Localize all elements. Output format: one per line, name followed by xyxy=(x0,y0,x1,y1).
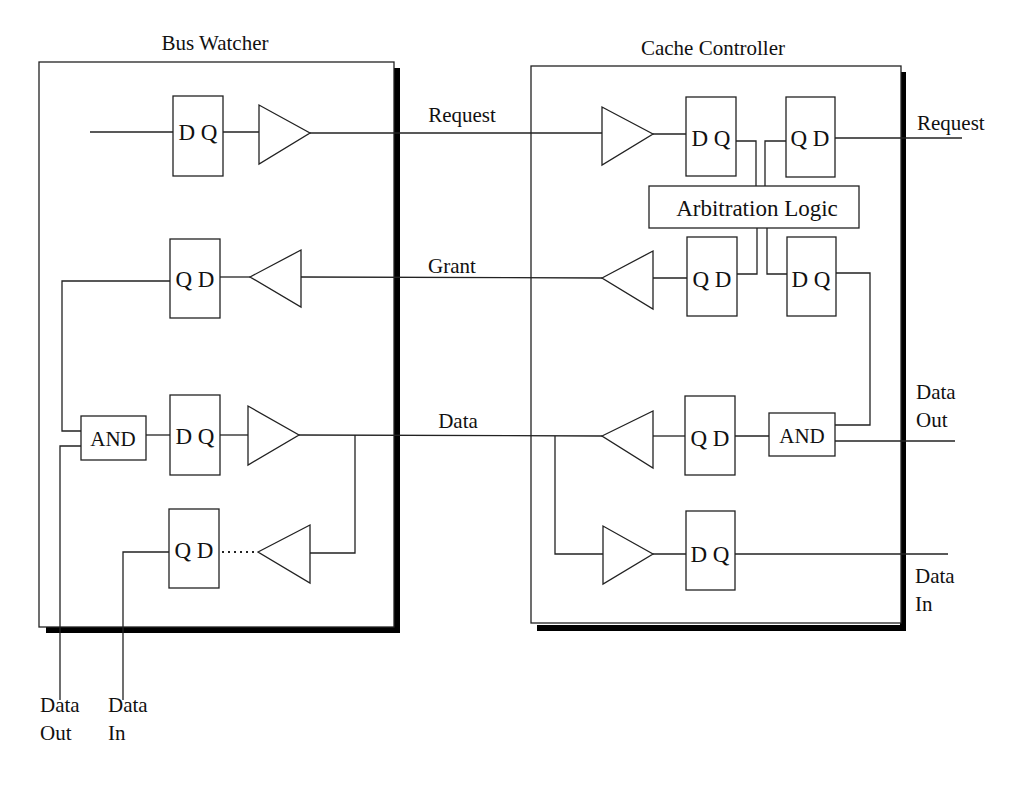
svg-text:AND: AND xyxy=(779,424,825,448)
svg-text:In: In xyxy=(108,721,126,745)
svg-text:In: In xyxy=(915,592,933,616)
svg-text:Q D: Q D xyxy=(693,267,732,292)
data-bus-label: Data xyxy=(438,409,478,433)
svg-text:Q D: Q D xyxy=(791,126,830,151)
svg-text:Q D: Q D xyxy=(175,538,214,563)
bw-data-in-label: Data xyxy=(108,693,148,717)
bw-data-out-label: Data xyxy=(40,693,80,717)
cache-controller-title: Cache Controller xyxy=(641,36,785,60)
grant-bus-label: Grant xyxy=(428,254,476,278)
cc-data-out-label: Data xyxy=(916,380,956,404)
svg-text:Q D: Q D xyxy=(691,426,730,451)
svg-text:D Q: D Q xyxy=(792,267,831,292)
bus-watcher-cache-controller-diagram: Bus Watcher Cache Controller D Q Request… xyxy=(0,0,1029,785)
bus-watcher-title: Bus Watcher xyxy=(162,31,269,55)
svg-text:D Q: D Q xyxy=(691,542,730,567)
svg-text:D Q: D Q xyxy=(692,126,731,151)
svg-text:Arbitration Logic: Arbitration Logic xyxy=(676,196,838,221)
arbitration-logic: Arbitration Logic xyxy=(649,186,859,228)
cc-data-in-label: Data xyxy=(915,564,955,588)
cc-external-request-label: Request xyxy=(917,111,985,135)
svg-text:D Q: D Q xyxy=(179,120,218,145)
svg-text:Out: Out xyxy=(916,408,948,432)
request-bus-label: Request xyxy=(428,103,496,127)
svg-text:Q D: Q D xyxy=(176,267,215,292)
svg-text:AND: AND xyxy=(90,427,136,451)
svg-text:Out: Out xyxy=(40,721,72,745)
svg-text:D Q: D Q xyxy=(176,424,215,449)
